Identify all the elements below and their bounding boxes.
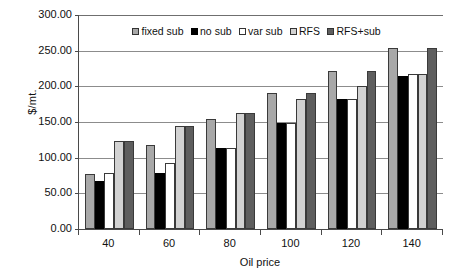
y-axis-tick-labels: 0.0050.00100.00150.00200.00250.00300.00	[24, 0, 72, 278]
legend-entry-rfs-sub: RFS+sub	[327, 25, 381, 37]
legend-swatch-icon	[191, 28, 198, 35]
bar-no-sub-80	[216, 148, 226, 229]
x-tick-label: 40	[85, 237, 131, 250]
bar-var-sub-120	[347, 99, 357, 229]
x-tick-mark	[260, 230, 261, 235]
y-tick-label: 50.00	[26, 187, 72, 198]
x-tick-label: 120	[328, 237, 374, 250]
x-axis-tick-marks	[78, 230, 442, 236]
legend-swatch-icon	[132, 28, 139, 35]
x-tick-label: 140	[389, 237, 435, 250]
x-tick-mark	[321, 230, 322, 235]
legend-entry-var-sub: var sub	[239, 25, 283, 37]
x-axis-tick-labels: 406080100120140	[78, 237, 442, 253]
legend-entry-no-sub: no sub	[191, 25, 232, 37]
y-tick-label: 150.00	[26, 116, 72, 127]
bar-var-sub-60	[165, 163, 175, 229]
legend-label: var sub	[248, 25, 282, 37]
bar-var-sub-100	[286, 123, 296, 229]
plot-area	[78, 15, 443, 230]
bar-rfs-140	[418, 74, 428, 230]
y-tick-label: 100.00	[26, 152, 72, 163]
legend-swatch-icon	[327, 28, 334, 35]
bar-rfs-sub-80	[245, 113, 255, 229]
legend-swatch-icon	[290, 28, 297, 35]
x-tick-label: 100	[267, 237, 313, 250]
y-tick-label: 0.00	[26, 223, 72, 234]
bar-no-sub-140	[398, 76, 408, 229]
bar-var-sub-80	[226, 148, 236, 229]
y-tick-label: 200.00	[26, 80, 72, 91]
bar-no-sub-60	[155, 173, 165, 229]
legend-label: no sub	[200, 25, 232, 37]
legend-swatch-icon	[239, 28, 246, 35]
legend-entry-rfs: RFS	[290, 25, 321, 37]
bar-fixed-sub-120	[328, 71, 338, 229]
legend-label: RFS+sub	[337, 25, 381, 37]
bar-fixed-sub-140	[388, 48, 398, 229]
bar-rfs-80	[236, 113, 246, 229]
bar-no-sub-40	[95, 181, 105, 229]
x-tick-mark	[199, 230, 200, 235]
x-tick-label: 80	[207, 237, 253, 250]
bar-fixed-sub-60	[146, 145, 156, 229]
y-tick-label: 300.00	[26, 9, 72, 20]
bar-fixed-sub-80	[206, 119, 216, 229]
bar-rfs-sub-140	[427, 48, 437, 229]
x-tick-mark	[442, 230, 443, 235]
bar-no-sub-100	[277, 123, 287, 229]
bars-layer	[79, 15, 443, 229]
legend-label: fixed sub	[142, 25, 184, 37]
bar-rfs-60	[175, 126, 185, 229]
bar-rfs-sub-40	[124, 141, 134, 229]
bar-fixed-sub-40	[85, 174, 95, 229]
bar-chart: $/mt. 0.0050.00100.00150.00200.00250.003…	[0, 0, 456, 278]
x-tick-mark	[78, 230, 79, 235]
y-tick-label: 250.00	[26, 45, 72, 56]
x-axis-title: Oil price	[78, 256, 442, 268]
bar-no-sub-120	[337, 99, 347, 229]
bar-rfs-120	[357, 86, 367, 229]
bar-rfs-100	[296, 99, 306, 229]
chart-legend: fixed subno subvar subRFSRFS+sub	[132, 25, 381, 37]
x-tick-mark	[139, 230, 140, 235]
x-tick-mark	[381, 230, 382, 235]
bar-var-sub-40	[104, 173, 114, 229]
bar-rfs-sub-100	[306, 93, 316, 229]
bar-rfs-sub-120	[367, 71, 377, 229]
x-tick-label: 60	[146, 237, 192, 250]
bar-fixed-sub-100	[267, 93, 277, 229]
legend-entry-fixed-sub: fixed sub	[132, 25, 184, 37]
legend-label: RFS	[299, 25, 320, 37]
bar-var-sub-140	[408, 74, 418, 230]
bar-rfs-sub-60	[185, 126, 195, 229]
bar-rfs-40	[114, 141, 124, 229]
